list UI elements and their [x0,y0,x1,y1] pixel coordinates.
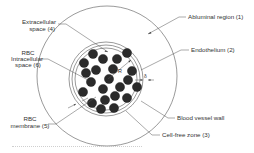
rbc-group [78,48,141,113]
label-blood-vessel-wall: Blood vessel wall [177,114,224,121]
vessel-diagram: R δ [0,0,254,153]
rbc-cell [122,93,131,102]
rbc-cell [96,104,105,113]
delta-symbol: δ [144,73,147,79]
rbc-cell [91,65,100,74]
label-rbc-membrane-line1: RBC [23,115,37,122]
rbc-cell [88,49,97,58]
label-abluminal-region: Abluminal region (1) [188,13,243,20]
rbc-cell [123,75,132,84]
rbc-cell [98,54,107,63]
delta-indicator: δ [135,73,154,81]
rbc-cell [86,77,95,86]
cropped-caption-remnant [12,146,142,150]
rbc-cell [110,91,119,100]
label-cell-free-zone: Cell-free zone (3) [162,131,210,138]
label-extracellular-line2: space (4) [29,25,55,32]
rbc-cell [115,82,124,91]
rbc-cell [81,68,90,77]
rbc-cell [132,82,141,91]
label-rbc-intracellular-line3: space (6) [15,61,41,68]
rbc-cell [112,54,121,63]
label-extracellular-line1: Extracellular [22,18,56,25]
rbc-cell [109,103,118,112]
rbc-cell [100,95,109,104]
rbc-cell [79,58,88,67]
rbc-cell [122,48,131,57]
diagram-canvas: R δ [0,0,254,153]
label-rbc-membrane-line2: membrane (5) [11,122,50,129]
rbc-cell [78,87,87,96]
rbc-cell [98,84,107,93]
radius-symbol: R [118,68,122,74]
label-endothelium: Endothelium (2) [191,46,235,53]
leader-lines [40,17,189,135]
rbc-cell [127,66,136,75]
